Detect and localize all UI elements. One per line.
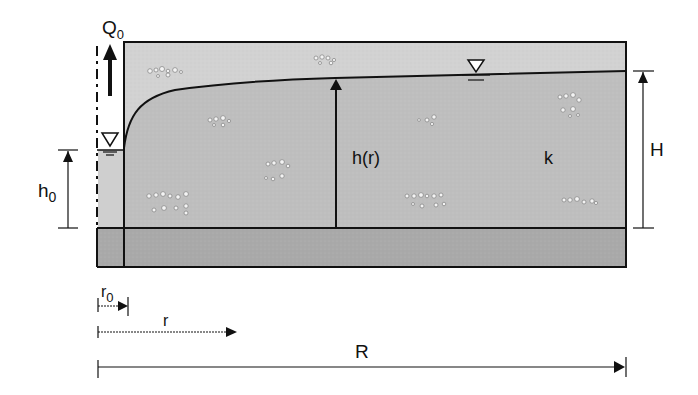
well-head-dimension [58,150,78,228]
label-well-radius: r0 [101,283,114,305]
label-radius-of-influence: R [355,341,369,362]
label-head-at-r: h(r) [352,148,380,168]
label-well-head: h0 [38,180,57,205]
label-discharge: Q0 [102,17,124,42]
label-conductivity: k [544,148,554,168]
well-water [98,150,124,228]
water-table-marker-icon [102,133,118,155]
discharge-arrow-icon [103,44,117,96]
well-drawdown-diagram: Q0 h0 h(r) k H r0 r [0,0,698,395]
label-aquifer-thickness: H [650,139,664,160]
label-radial-distance: r [163,312,169,329]
